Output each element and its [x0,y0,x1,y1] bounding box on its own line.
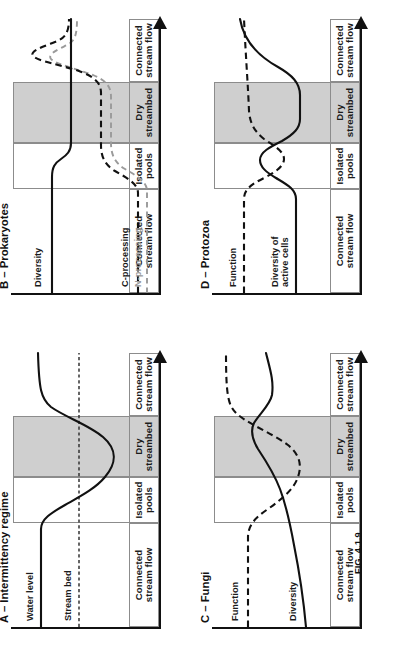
figure-root: Connectedstream flow Isolatedpools Dryst… [0,0,401,660]
panel-d-protozoa: Connectedstream flow Isolatedpools Dryst… [200,0,401,322]
curve-water-level [38,353,114,627]
panel-b-value-axis [11,293,161,295]
panel-a-intermittency-regime: Connectedstream flow Isolatedpools Dryst… [0,330,200,660]
panel-d-value-axis [212,293,362,295]
panel-c-length-axis [360,363,362,629]
panel-d-length-axis [360,29,362,295]
panel-b-title: B – Prokaryotes [0,203,10,289]
panel-b-length-axis [159,29,161,295]
panel-a-length-axis [159,363,161,629]
series-label-function: Function [228,248,238,287]
panel-a-value-axis [11,627,161,629]
figure-caption: FIG. 4.1.9 [352,532,363,574]
series-label-diversity: Diversity [288,582,298,621]
panel-d-axis-arrow-icon [354,16,368,29]
series-label-n-processing: N-processing [133,228,143,287]
panel-a-title: A – Intermittency regime [0,492,10,623]
panel-c-value-axis [212,627,362,629]
panel-b-prokaryotes: Connectedstream flow Isolatedpools Dryst… [0,0,200,322]
series-label-stream-bed: Stream bed [63,570,73,621]
panel-b-axis-arrow-icon [153,16,167,29]
series-label-diversity-active-cells: Diversity of active cells [270,231,290,287]
panel-c-axis-arrow-icon [354,350,368,363]
panel-c-fungi: Connectedstream flow Isolatedpools Dryst… [200,330,401,660]
series-label-water-level: Water level [25,572,35,621]
series-label-diversity: Diversity [33,248,43,287]
panel-d-title: D – Protozoa [199,220,211,289]
curve-diversity [52,19,71,293]
panel-a-axis-arrow-icon [153,350,167,363]
panel-c-title: C – Fungi [199,572,211,623]
series-label-function: Function [230,582,240,621]
series-label-c-processing: C-processing [120,228,130,287]
